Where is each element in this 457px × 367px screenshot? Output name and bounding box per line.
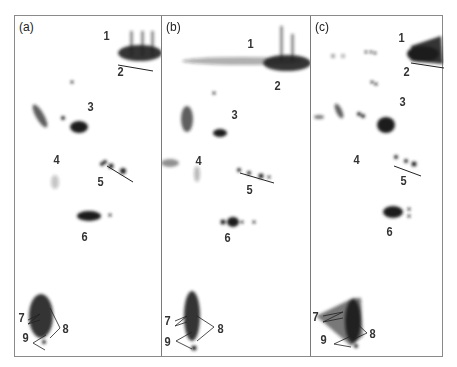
spot-label-1: 1 (104, 28, 110, 43)
spot-label-4: 4 (54, 152, 60, 167)
spot-label-3: 3 (232, 107, 238, 122)
spot-label-6: 6 (225, 230, 231, 245)
spot-label-5: 5 (247, 182, 253, 197)
spot-label-3: 3 (88, 99, 94, 114)
spot-label-9: 9 (23, 330, 29, 345)
spot-label-7: 7 (313, 309, 319, 324)
spot-label-3: 3 (400, 94, 406, 109)
spot-label-4: 4 (354, 152, 360, 167)
gel-image-b (162, 16, 310, 358)
spot-label-8: 8 (370, 326, 376, 341)
spot-label-5: 5 (401, 173, 407, 188)
spot-label-9: 9 (165, 334, 171, 349)
spot-label-2: 2 (404, 64, 410, 79)
spot-label-8: 8 (63, 321, 69, 336)
spot-label-6: 6 (387, 224, 393, 239)
spot-label-9: 9 (321, 332, 327, 347)
spot-label-4: 4 (196, 153, 202, 168)
spot-label-7: 7 (19, 310, 25, 325)
spot-label-5: 5 (98, 174, 104, 189)
panel-a: (a) (15, 16, 161, 356)
panel-b: (b) 1 2 (162, 16, 310, 356)
gel-image-c (311, 16, 444, 358)
panel-c: (c) (311, 16, 444, 356)
spot-label-8: 8 (218, 321, 224, 336)
spot-label-2: 2 (118, 64, 124, 79)
spot-label-7: 7 (165, 313, 171, 328)
spot-label-1: 1 (399, 30, 405, 45)
figure-frame: (a) (14, 15, 443, 357)
spot-label-6: 6 (82, 229, 88, 244)
gel-image-a (15, 16, 161, 358)
spot-label-2: 2 (275, 78, 281, 93)
spot-label-1: 1 (248, 36, 254, 51)
